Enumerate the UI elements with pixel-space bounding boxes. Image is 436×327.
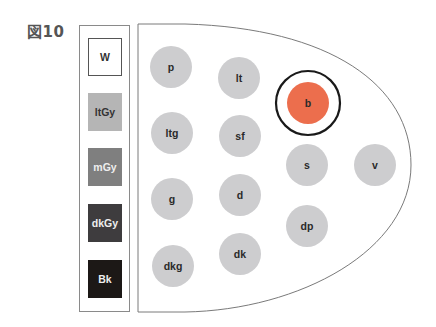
tone-node-s: s: [286, 144, 328, 186]
tone-node-dkg: dkg: [152, 245, 194, 287]
tone-node-label: dkg: [164, 260, 183, 272]
tone-node-label: v: [372, 159, 378, 171]
tone-node-label: d: [237, 189, 243, 201]
tone-node-p: p: [150, 46, 192, 88]
tone-node-label: dp: [301, 220, 314, 232]
tone-node-label: p: [168, 61, 174, 73]
tone-node-label: ltg: [166, 127, 179, 139]
tone-node-label: s: [304, 159, 310, 171]
tone-node-b: b: [276, 71, 340, 135]
tone-node-label: b: [305, 97, 311, 109]
tone-node-dp: dp: [286, 205, 328, 247]
tone-node-sf: sf: [219, 115, 261, 157]
tone-node-label: lt: [236, 72, 243, 84]
tone-node-label: dk: [234, 248, 246, 260]
tone-map-diagram: pltbltgsfsvgddpdkgdk: [0, 0, 436, 327]
tone-node-dk: dk: [219, 233, 261, 275]
tone-node-ltg: ltg: [151, 112, 193, 154]
tone-node-label: sf: [235, 130, 245, 142]
tone-node-d: d: [219, 174, 261, 216]
tone-node-v: v: [354, 144, 396, 186]
tone-node-g: g: [151, 178, 193, 220]
tone-node-label: g: [169, 193, 175, 205]
tone-node-lt: lt: [218, 57, 260, 99]
